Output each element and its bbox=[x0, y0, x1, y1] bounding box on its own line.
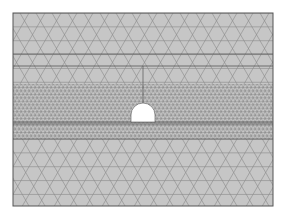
mesh-canvas bbox=[0, 0, 281, 220]
mesh-diagram bbox=[0, 0, 281, 220]
